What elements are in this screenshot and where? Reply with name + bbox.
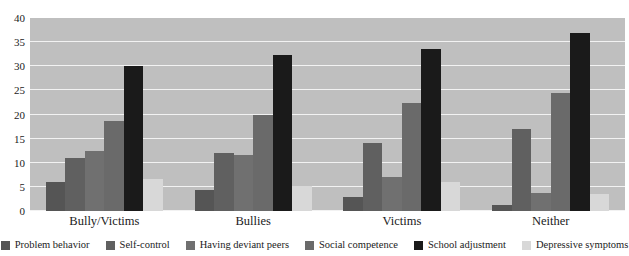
legend-swatch-icon [305,241,314,250]
bar [363,143,383,212]
legend-item[interactable]: Social competence [305,240,398,251]
chart-legend: Problem behaviorSelf-controlHaving devia… [0,234,629,256]
legend-label: Depressive symptoms [536,240,628,251]
legend-item[interactable]: Depressive symptoms [522,240,628,251]
legend-swatch-icon [522,241,531,250]
y-tick-label: 5 [20,181,26,192]
legend-label: Problem behavior [15,240,90,251]
bar [343,197,363,211]
y-tick-label: 25 [14,85,25,96]
x-axis: Bully/VictimsBulliesVictimsNeither [30,212,625,234]
y-tick-label: 0 [20,206,26,217]
bar [104,121,124,211]
bar [551,93,571,211]
bar [441,182,461,211]
y-tick-label: 10 [14,157,25,168]
bar [492,205,512,211]
legend-label: Social competence [319,240,398,251]
bar [195,190,215,211]
legend-item[interactable]: Self-control [106,240,170,251]
bar [65,158,85,211]
bar [590,194,610,211]
bar [273,55,293,211]
legend-swatch-icon [186,241,195,250]
bar-group [46,18,163,211]
x-tick-label: Neither [532,214,569,229]
bar [234,155,254,211]
bar [570,33,590,211]
bar [124,66,144,211]
x-tick-label: Bullies [235,214,270,229]
plot-area [30,18,625,211]
bar-group [492,18,609,211]
bar [512,129,532,211]
legend-label: School adjustment [428,240,506,251]
bar [143,179,163,211]
y-tick-label: 35 [14,37,25,48]
bar [85,151,105,211]
bar [214,153,234,211]
legend-swatch-icon [414,241,423,250]
x-tick-label: Bully/Victims [69,214,139,229]
bar [421,49,441,211]
y-tick-label: 40 [14,13,25,24]
y-tick-label: 15 [14,133,25,144]
legend-item[interactable]: Problem behavior [1,240,90,251]
x-tick-label: Victims [382,214,421,229]
legend-swatch-icon [106,241,115,250]
legend-item[interactable]: Having deviant peers [186,240,289,251]
bar-chart: 0510152025303540 Bully/VictimsBulliesVic… [0,0,629,256]
bar [292,186,312,211]
bar-group [195,18,312,211]
legend-label: Self-control [120,240,170,251]
bar [531,193,551,211]
bar [382,177,402,211]
y-tick-label: 20 [14,109,25,120]
legend-item[interactable]: School adjustment [414,240,506,251]
y-axis: 0510152025303540 [0,0,30,215]
bar [253,115,273,212]
y-tick-label: 30 [14,61,25,72]
bar-group [343,18,460,211]
legend-swatch-icon [1,241,10,250]
bar [46,182,66,211]
legend-label: Having deviant peers [200,240,289,251]
bar [402,103,422,211]
